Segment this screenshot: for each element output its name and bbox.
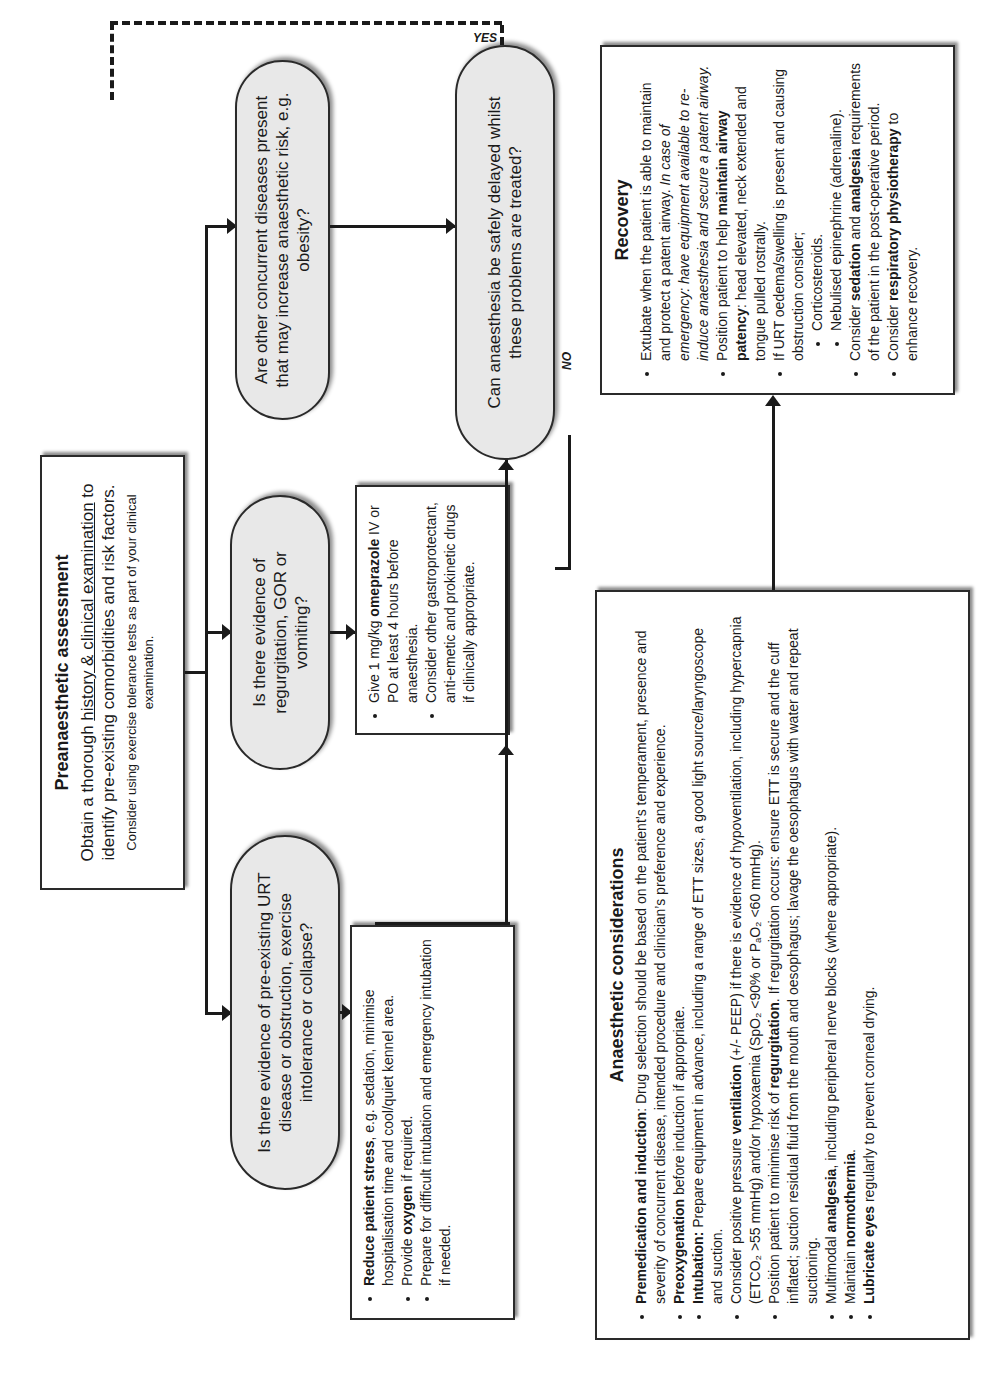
connector-concurrent-to-decision — [330, 225, 455, 228]
recovery-item: Extubate when the patient is able to mai… — [637, 57, 713, 361]
arrow-right-icon — [498, 745, 514, 755]
urt-action-item: Provide oxygen if required. — [398, 937, 417, 1286]
question-urt-pill: Is there evidence of pre-existing URT di… — [230, 835, 340, 1190]
anaesthetic-item: Intubation: Prepare equipment in advance… — [689, 604, 727, 1304]
connector-branch-horizontal — [205, 225, 208, 1015]
decision-delay-text: Can anaesthesia be safely delayed whilst… — [484, 77, 526, 428]
recovery-item: Position patient to help maintain airway… — [713, 57, 770, 361]
question-concurrent-pill: Are other concurrent diseases present th… — [235, 60, 330, 420]
recovery-item: Consider respiratory physiotherapy to en… — [884, 57, 922, 361]
recovery-box: Recovery Extubate when the patient is ab… — [600, 45, 955, 395]
arrow-right-icon — [765, 395, 781, 406]
flowchart-canvas: Preanaesthetic assessment Obtain a thoro… — [0, 0, 991, 1380]
recovery-list: Extubate when the patient is able to mai… — [637, 57, 922, 383]
connector-anaesthetic-to-recovery — [772, 400, 775, 590]
gor-actions-list: Give 1 mg/kg omeprazole IV or PO at leas… — [365, 495, 479, 725]
anaesthetic-title: Anaesthetic considerations — [607, 604, 628, 1326]
urt-actions-list: Reduce patient stress, e.g. sedation, mi… — [360, 937, 455, 1308]
yes-loop-vertical — [500, 25, 504, 45]
question-gor-pill: Is there evidence of regurgitation, GOR … — [230, 495, 330, 770]
urt-action-item: Prepare for difficult intubation and eme… — [417, 937, 455, 1286]
recovery-item: If URT oedema/swelling is present and ca… — [770, 57, 846, 361]
gor-action-item: Give 1 mg/kg omeprazole IV or PO at leas… — [365, 495, 422, 703]
preassessment-note: Consider using exercise tolerance tests … — [123, 467, 157, 878]
gor-actions-box: Give 1 mg/kg omeprazole IV or PO at leas… — [355, 485, 510, 735]
no-label: NO — [560, 352, 574, 370]
anaesthetic-considerations-box: Anaesthetic considerations Premedication… — [595, 590, 970, 1340]
anaesthetic-item: Preoxygenation before induction if appro… — [670, 604, 689, 1304]
question-concurrent-text: Are other concurrent diseases present th… — [251, 92, 314, 388]
connector-urt-box-side — [375, 922, 505, 925]
anaesthetic-item: Maintain normothermia. — [841, 604, 860, 1304]
recovery-title: Recovery — [612, 57, 633, 383]
recovery-sub-list: Corticosteroids. Nebulised epinephrine (… — [808, 57, 846, 361]
recovery-sub-item: Nebulised epinephrine (adrenaline). — [827, 57, 846, 331]
preassessment-title: Preanaesthetic assessment — [52, 467, 73, 878]
anaesthetic-item: Consider positive pressure ventilation (… — [727, 604, 765, 1304]
anaesthetic-item: Premedication and induction: Drug select… — [632, 604, 670, 1304]
yes-label: YES — [473, 31, 497, 45]
anaesthetic-item: Lubricate eyes regularly to prevent corn… — [860, 604, 879, 1304]
decision-delay-pill: Can anaesthesia be safely delayed whilst… — [455, 45, 555, 460]
urt-action-item: Reduce patient stress, e.g. sedation, mi… — [360, 937, 398, 1286]
recovery-item: Consider sedation and analgesia requirem… — [846, 57, 884, 361]
preanaesthetic-assessment-box: Preanaesthetic assessment Obtain a thoro… — [40, 455, 185, 890]
urt-actions-box: Reduce patient stress, e.g. sedation, mi… — [350, 925, 515, 1320]
recovery-sub-item: Corticosteroids. — [808, 57, 827, 331]
anaesthetic-item: Multimodal analgesia, including peripher… — [822, 604, 841, 1304]
anaesthetic-item: Position patient to minimise risk of reg… — [765, 604, 822, 1304]
connector-assessment-down — [185, 671, 207, 674]
anaesthetic-list: Premedication and induction: Drug select… — [632, 604, 879, 1326]
connector-urt-to-decision — [505, 460, 508, 925]
yes-loop-right — [110, 21, 502, 25]
preassessment-text: Obtain a thorough history & clinical exa… — [77, 467, 119, 878]
yes-loop-top — [110, 22, 114, 100]
gor-action-item: Consider other gastroprotectant, anti-em… — [422, 495, 479, 703]
question-urt-text: Is there evidence of pre-existing URT di… — [254, 867, 317, 1158]
question-gor-text: Is there evidence of regurgitation, GOR … — [249, 527, 312, 738]
no-connector-horizontal — [568, 435, 571, 570]
arrow-right-icon — [498, 460, 514, 470]
